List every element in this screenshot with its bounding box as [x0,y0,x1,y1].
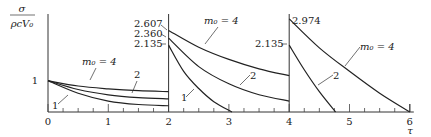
label-m0-4-c: m₀ = 4 [360,41,395,52]
value-2974: 2.974 [292,15,321,26]
label-m0-4-a: m₀ = 4 [82,56,117,67]
label-m0-4-b: m₀ = 4 [204,15,239,26]
chart: 0123456 σ ρcV₀ 1 m₀ = 4 2 1 2.607 2.360 … [0,0,431,137]
label-2-b: 2 [250,70,256,81]
y-axis-label-numerator: σ [19,3,27,14]
x-tick-label: 1 [105,116,111,127]
curve-m0=2 [48,81,169,99]
arrow-2-b [240,75,250,85]
x-tick-label: 3 [226,116,232,127]
arrow-2-c [318,75,333,85]
arrow-m0-4-b [205,27,218,44]
x-axis-label: τ [407,125,413,136]
arrow-m0-4-c [345,47,360,66]
value-2135-b: 2.135 [255,38,284,49]
curve-m0=1 [169,45,232,112]
x-tick-label: 0 [45,116,51,127]
y-value-one: 1 [32,75,38,86]
curve-m0=4 [289,19,410,112]
x-tick-label: 5 [346,116,352,127]
arrow-m0-4-a [90,68,96,80]
label-1-a: 1 [52,100,58,111]
annotations: σ ρcV₀ 1 m₀ = 4 2 1 2.607 2.360 2.135 m₀… [10,3,414,136]
y-axis-label-denominator: ρcV₀ [10,18,34,29]
value-2135-a: 2.135 [134,38,163,49]
label-1-b: 1 [181,92,187,103]
x-tick-label: 2 [165,116,171,127]
x-tick-label: 4 [286,116,292,127]
arrow-1-a [58,95,68,104]
label-2-c: 2 [333,70,339,81]
label-2-a: 2 [134,69,140,80]
